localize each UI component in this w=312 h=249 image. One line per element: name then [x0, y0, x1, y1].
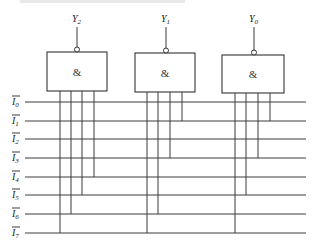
output-label: Y1	[161, 13, 170, 26]
and-symbol: &	[249, 68, 258, 80]
and-gates: &Y2&Y1&Y0	[47, 13, 284, 93]
input-label-subscript: 7	[15, 232, 19, 240]
input-label: I1	[11, 115, 19, 128]
input-label: I6	[11, 208, 19, 221]
input-label-subscript: 2	[15, 138, 19, 146]
input-label-subscript: 3	[14, 157, 19, 165]
input-label-subscript: 4	[15, 176, 19, 184]
input-label-subscript: 6	[15, 213, 19, 221]
input-label-subscript: 0	[15, 101, 19, 109]
output-label: Y0	[249, 13, 259, 26]
input-label: I7	[11, 227, 19, 240]
and-gate-y2: &Y2	[47, 13, 107, 91]
and-symbol: &	[161, 67, 170, 79]
decoder-diagram: I0I1I2I3I4I5I6I7 &Y2&Y1&Y0	[0, 0, 312, 249]
output-label-subscript: 0	[255, 18, 259, 26]
output-label-subscript: 2	[78, 18, 82, 26]
inversion-bubble-icon	[75, 47, 80, 52]
input-label: I5	[11, 189, 19, 202]
and-gate-y0: &Y0	[222, 13, 284, 93]
input-line-i7: I7	[11, 227, 306, 240]
and-gate-y1: &Y1	[135, 13, 195, 92]
input-label: I0	[11, 96, 19, 109]
output-label-subscript: 1	[167, 18, 171, 26]
input-label-subscript: 5	[15, 194, 19, 202]
output-label: Y2	[72, 13, 82, 26]
input-label-subscript: 1	[15, 120, 19, 128]
inversion-bubble-icon	[164, 48, 169, 53]
gate-input-wires	[60, 91, 270, 233]
and-symbol: &	[73, 66, 82, 78]
input-label: I2	[11, 133, 19, 146]
inversion-bubble-icon	[252, 50, 257, 55]
input-label: I4	[11, 171, 19, 184]
cropped-caption-remnant	[20, 0, 185, 3]
input-label: I3	[11, 152, 19, 165]
